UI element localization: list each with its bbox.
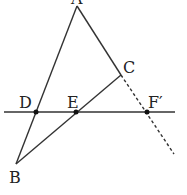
label-C: C [123, 58, 135, 77]
label-A: A [70, 0, 83, 8]
geometry-diagram: A B C D E F′ [0, 0, 187, 195]
segment-AB [16, 6, 77, 164]
label-F: F′ [148, 93, 163, 112]
label-E: E [67, 93, 79, 112]
segment-AC [77, 6, 121, 75]
label-B: B [9, 168, 21, 187]
dashed-extension-AC [121, 75, 174, 154]
label-D: D [19, 93, 32, 112]
segment-BC [16, 75, 121, 164]
point-D [34, 110, 39, 115]
